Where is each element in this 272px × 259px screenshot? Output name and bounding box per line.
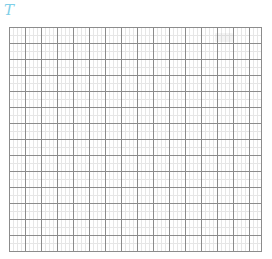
stray-smudge-mark <box>215 33 233 42</box>
graph-paper-grid[interactable] <box>9 27 262 252</box>
logo-letter-t: T <box>4 0 28 20</box>
app-root: T <box>0 0 272 259</box>
grid-border <box>9 27 262 252</box>
